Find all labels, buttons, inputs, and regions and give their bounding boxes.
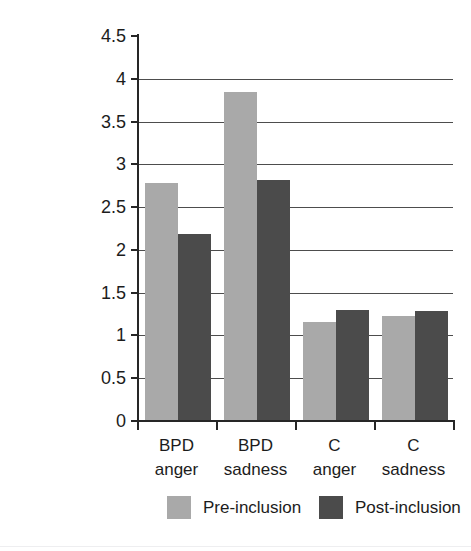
x-axis-category-label: BPDsadness xyxy=(216,434,295,482)
x-axis-category-label-line1: BPD xyxy=(159,436,194,455)
y-axis-tick xyxy=(131,292,139,294)
bottom-divider xyxy=(0,546,471,547)
chart-title xyxy=(0,0,471,7)
legend-swatch-post xyxy=(319,496,343,519)
y-axis-tick-label: 1.5 xyxy=(82,284,126,302)
bar xyxy=(257,180,290,421)
legend-label: Pre-inclusion xyxy=(203,496,301,519)
x-axis-category-label-line1: BPD xyxy=(238,436,273,455)
x-axis-category-label: Csadness xyxy=(374,434,453,482)
x-axis-category-label: Canger xyxy=(295,434,374,482)
y-axis-tick-label: 4 xyxy=(82,70,126,88)
bars-layer xyxy=(137,36,455,421)
y-axis-tick xyxy=(131,377,139,379)
y-axis-tick-label: 0 xyxy=(82,412,126,430)
legend-label: Post-inclusion xyxy=(355,496,461,519)
y-axis-tick xyxy=(131,206,139,208)
y-axis-tick xyxy=(131,334,139,336)
y-axis-tick xyxy=(131,163,139,165)
y-axis-tick xyxy=(131,35,139,37)
x-axis-category-label-line1: C xyxy=(328,436,340,455)
x-axis-tick xyxy=(453,421,455,430)
y-axis-tick xyxy=(131,121,139,123)
x-axis-ticks xyxy=(137,421,457,430)
y-axis-labels: 4.543.532.521.510.50 xyxy=(76,0,126,440)
x-axis-category-label-line2: sadness xyxy=(374,458,453,482)
y-axis-tick-label: 2 xyxy=(82,241,126,259)
x-axis-category-label-line1: C xyxy=(407,436,419,455)
y-axis-tick-label: 0.5 xyxy=(82,369,126,387)
bar xyxy=(224,92,257,421)
bar xyxy=(336,310,369,421)
x-axis-category-label-line2: anger xyxy=(137,458,216,482)
x-axis-tick xyxy=(295,421,297,430)
y-axis-tick-label: 1 xyxy=(82,326,126,344)
bar xyxy=(145,183,178,421)
x-axis-category-label: BPDanger xyxy=(137,434,216,482)
y-axis-tick-label: 3 xyxy=(82,155,126,173)
legend-item[interactable]: Post-inclusion xyxy=(319,496,461,519)
legend-item[interactable]: Pre-inclusion xyxy=(167,496,301,519)
chart-legend: Pre-inclusionPost-inclusion xyxy=(137,496,457,524)
x-axis-category-label-line2: sadness xyxy=(216,458,295,482)
x-axis-tick xyxy=(374,421,376,430)
legend-swatch-pre xyxy=(167,496,191,519)
y-axis-tick xyxy=(131,249,139,251)
y-axis-tick-label: 3.5 xyxy=(82,113,126,131)
y-axis-tick-label: 2.5 xyxy=(82,198,126,216)
x-axis-category-label-line2: anger xyxy=(295,458,374,482)
bar xyxy=(415,311,448,421)
bar xyxy=(382,316,415,421)
x-axis-tick xyxy=(137,421,139,430)
y-axis-tick xyxy=(131,78,139,80)
bar xyxy=(178,234,211,421)
bar xyxy=(303,322,336,421)
y-axis-tick xyxy=(131,420,139,422)
x-axis-tick xyxy=(216,421,218,430)
y-axis-tick-label: 4.5 xyxy=(82,27,126,45)
x-axis-labels: BPDangerBPDsadnessCangerCsadness xyxy=(137,434,455,484)
